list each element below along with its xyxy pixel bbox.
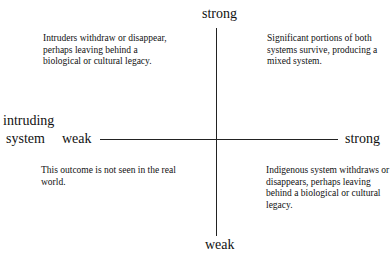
horizontal-axis-line (100, 139, 338, 140)
vertical-axis-line (216, 28, 217, 236)
horizontal-axis-left-label: weak (62, 132, 92, 146)
vertical-axis-top-label: strong (202, 7, 237, 21)
horizontal-axis-title-line2: system (6, 132, 45, 146)
quadrant-bottom-right-text: Indigenous system withdraws or disappear… (266, 165, 390, 211)
horizontal-axis-title-line1: intruding (3, 114, 54, 128)
quadrant-bottom-left-text: This outcome is not seen in the real wor… (41, 165, 176, 188)
quadrant-top-right-text: Significant portions of both systems sur… (267, 33, 387, 68)
quadrant-top-left-text: Intruders withdraw or disappear, perhaps… (43, 33, 168, 68)
vertical-axis-bottom-label: weak (205, 238, 235, 252)
horizontal-axis-right-label: strong (345, 132, 380, 146)
